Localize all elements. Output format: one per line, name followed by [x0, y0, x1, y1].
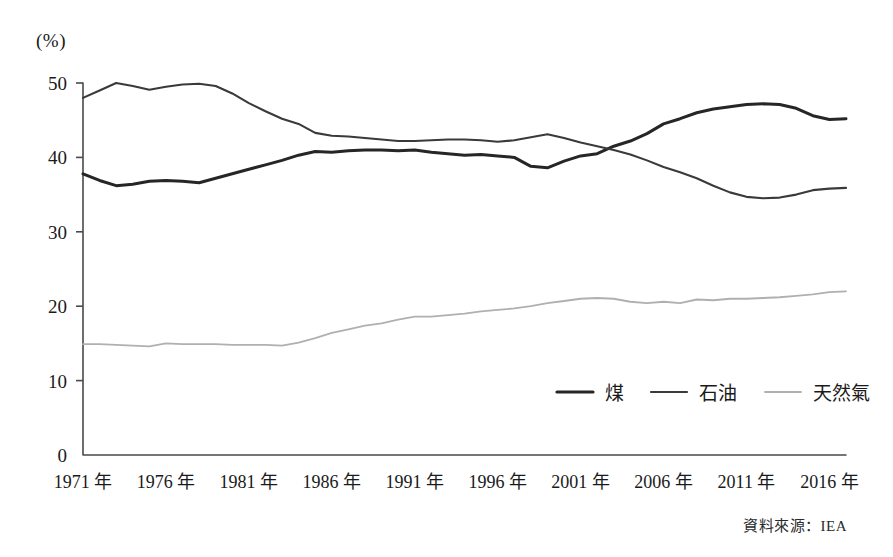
source-note: 資料來源：IEA [743, 514, 847, 535]
y-axis-tick-label: 40 [48, 147, 67, 168]
series-group [83, 83, 846, 346]
y-axis-tick-label: 0 [58, 445, 68, 466]
x-axis-tick-label: 1991 年 [385, 472, 444, 492]
y-axis-tick-label: 20 [48, 296, 67, 317]
x-axis-tick-group: 1971 年1976 年1981 年1986 年1991 年1996 年2001… [54, 472, 859, 492]
legend-label-天然氣: 天然氣 [813, 383, 870, 404]
legend-label-石油: 石油 [699, 383, 737, 404]
energy-share-line-chart: (%) 01020304050 1971 年1976 年1981 年1986 年… [0, 0, 893, 557]
chart-canvas: 01020304050 1971 年1976 年1981 年1986 年1991… [0, 0, 893, 557]
x-axis-tick-label: 1971 年 [54, 472, 113, 492]
x-axis-tick-label: 1986 年 [303, 472, 362, 492]
chart-legend: 煤石油天然氣 [557, 383, 870, 404]
x-axis-tick-label: 2011 年 [718, 472, 776, 492]
y-axis-tick-label: 30 [48, 222, 67, 243]
x-axis-tick-label: 2006 年 [634, 472, 693, 492]
x-axis-tick-label: 2001 年 [551, 472, 610, 492]
series-line-煤 [83, 104, 846, 186]
series-line-石油 [83, 83, 846, 198]
y-axis-tick-label: 10 [48, 371, 67, 392]
y-axis-tick-label: 50 [48, 73, 67, 94]
x-axis-tick-label: 1976 年 [137, 472, 196, 492]
y-axis-tick-group: 01020304050 [48, 73, 83, 466]
series-line-天然氣 [83, 291, 846, 346]
x-axis-tick-label: 2016 年 [800, 472, 859, 492]
legend-label-煤: 煤 [605, 383, 624, 404]
x-axis-tick-label: 1996 年 [468, 472, 527, 492]
x-axis-tick-label: 1981 年 [220, 472, 279, 492]
